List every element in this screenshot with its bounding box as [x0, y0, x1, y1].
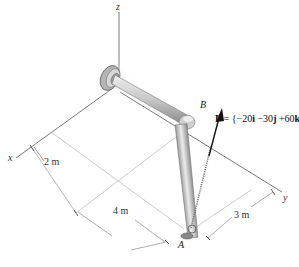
dim-line-3m-a	[208, 217, 232, 238]
dim-tick	[74, 210, 78, 216]
dim-line-4m-c	[135, 220, 165, 242]
x-axis	[16, 88, 113, 158]
dim-line-4m-a	[78, 212, 112, 236]
y-axis-label: y	[283, 193, 287, 203]
pipe-segment-B-to-A	[175, 124, 199, 239]
dim-line-3m-b	[251, 192, 273, 207]
dimension-4m: 4 m	[113, 206, 128, 216]
dimension-3m: 3 m	[234, 210, 249, 220]
dim-line-4m-b	[131, 242, 166, 250]
point-A-label: A	[178, 240, 184, 250]
dim-tick	[271, 189, 275, 195]
z-axis-label: z	[116, 2, 120, 12]
cable-chain	[191, 146, 211, 228]
x-axis-label: x	[8, 153, 12, 163]
dimension-2m: 2 m	[44, 157, 59, 167]
point-B-label: B	[200, 100, 206, 110]
dim-line-2m-seg	[34, 147, 44, 161]
pipe-segment-origin-to-B	[112, 75, 187, 124]
construction-line	[76, 130, 185, 213]
pipe-force-diagram	[0, 0, 299, 267]
force-vector-label: F = {−20i −30j +60k}N	[215, 114, 299, 124]
